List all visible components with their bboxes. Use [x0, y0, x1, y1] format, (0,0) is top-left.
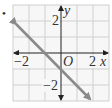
y-tick-neg2: −2 — [43, 78, 58, 93]
x-tick-neg2: −2 — [14, 54, 29, 69]
y-tick-2: 2 — [52, 13, 59, 28]
coordinate-graph: • 2 y −2 O 2 x −2 — [0, 0, 112, 108]
x-axis-label: x — [99, 54, 107, 69]
problem-bullet: • — [1, 8, 7, 19]
origin-label: O — [63, 54, 73, 69]
x-tick-2: 2 — [89, 54, 96, 69]
y-axis-label: y — [62, 3, 71, 18]
